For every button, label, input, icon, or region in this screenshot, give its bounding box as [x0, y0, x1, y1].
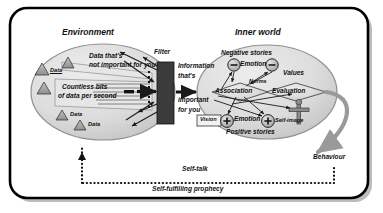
info-line2: that's — [178, 73, 195, 80]
self-image-label: Self-image — [275, 118, 303, 124]
emotion-positive-label: Emotion — [234, 116, 260, 123]
emotion-negative-label: Emotion — [240, 61, 266, 68]
title-inner-world: Inner world — [235, 28, 281, 37]
not-important-line2: not important for you — [89, 62, 156, 69]
data-label-2: Data — [70, 112, 82, 118]
data-label-3: Data — [88, 122, 100, 128]
data-label-1: Data — [50, 68, 62, 74]
countless-line1: Countless bits — [62, 84, 107, 91]
diagram-canvas: Environment Inner world Data that's not … — [0, 0, 383, 213]
vision-label: Vision — [200, 117, 217, 123]
behaviour-label: Behaviour — [313, 154, 345, 161]
info-line1: Information — [178, 63, 214, 70]
info-line3: important — [178, 97, 208, 104]
info-line4: for you — [178, 107, 200, 114]
filter-mesh — [157, 62, 174, 124]
positive-stories-label: Positive stories — [226, 129, 275, 136]
title-environment: Environment — [62, 28, 114, 37]
countless-line2: of data per second — [58, 93, 117, 100]
not-important-line1: Data that's — [89, 53, 122, 60]
association-label: Association — [215, 88, 252, 95]
values-label: Values — [283, 70, 304, 77]
norms-label: Norms — [249, 79, 267, 85]
self-fulfilling-label: Self-fulfilling prophecy — [152, 186, 223, 193]
self-talk-label: Self-talk — [182, 166, 208, 173]
evaluation-label: Evaluation — [272, 88, 305, 95]
negative-stories-label: Negative stories — [221, 50, 272, 57]
stream-dash — [124, 90, 134, 93]
filter-label: Filter — [154, 49, 170, 56]
